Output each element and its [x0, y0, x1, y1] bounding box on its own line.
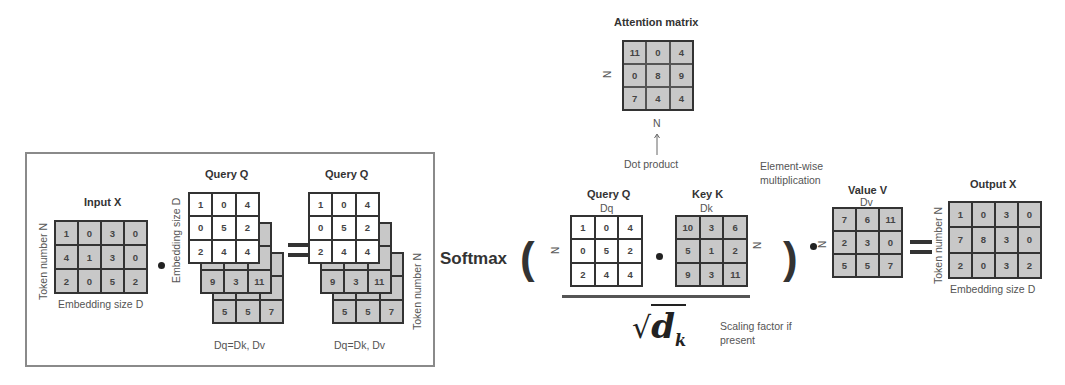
matrix-cell: 0 [190, 217, 211, 238]
matrix-cell: 4 [671, 42, 692, 63]
matrix-cell: 5 [834, 255, 855, 276]
elementwise-line1: Element-wise [760, 160, 823, 172]
equals-operator [288, 243, 310, 257]
matrix-cell: 8 [973, 228, 994, 251]
dot-product-operator [158, 262, 165, 269]
value-row-label: N [817, 241, 828, 248]
scaling-note-line2: present [720, 334, 755, 346]
attention-matrix: 1104089744 [622, 40, 694, 111]
input-x-title: Input X [84, 196, 121, 208]
matrix-cell: 4 [237, 241, 258, 262]
matrix-cell: 4 [596, 264, 618, 285]
matrix-cell: 9 [322, 271, 343, 292]
elementwise-operator [810, 243, 817, 250]
matrix-cell: 2 [619, 240, 641, 261]
matrix-cell: 5 [334, 301, 355, 322]
left-paren: ( [520, 236, 535, 280]
query-row-label: N [550, 247, 561, 254]
matrix-cell: 3 [996, 254, 1017, 277]
result-front-matrix: 104052244 [308, 192, 380, 264]
key-title: Key K [692, 188, 723, 200]
matrix-cell: 5 [213, 217, 234, 238]
matrix-cell: 2 [572, 264, 594, 285]
matrix-cell: 9 [202, 271, 223, 292]
result-stack-side-label: Token number N [411, 253, 423, 330]
matrix-cell: 4 [357, 194, 378, 215]
matrix-cell: 10 [677, 217, 699, 238]
matrix-cell: 0 [1019, 228, 1040, 251]
matrix-cell: 1 [572, 217, 594, 238]
matrix-cell: 2 [1019, 254, 1040, 277]
matrix-cell: 1 [56, 222, 77, 244]
matrix-cell: 3 [345, 271, 366, 292]
key-row-label: N [752, 242, 763, 249]
softmax-label: Softmax [440, 249, 507, 269]
matrix-cell: 11 [369, 271, 390, 292]
matrix-cell: 0 [624, 65, 645, 86]
matrix-cell: 5 [333, 217, 354, 238]
matrix-cell: 3 [701, 217, 723, 238]
output-row-label: Token number N [932, 207, 944, 284]
matrix-cell: 1 [701, 240, 723, 261]
matrix-cell: 0 [880, 232, 901, 253]
matrix-cell: 2 [724, 240, 746, 261]
dk-term: kdk [651, 304, 686, 346]
weight-stack-bottom-label: Dq=Dk, Dv [214, 339, 265, 351]
result-stack-title: Query Q [325, 168, 368, 180]
matrix-cell: 0 [79, 270, 100, 292]
matrix-cell: 0 [213, 194, 234, 215]
matrix-cell: 0 [310, 217, 331, 238]
weight-stack-title: Query Q [205, 168, 248, 180]
fraction-line [562, 295, 750, 298]
key-subtitle: Dk [700, 202, 713, 214]
matrix-cell: 7 [950, 228, 971, 251]
matrix-cell: 11 [249, 271, 270, 292]
matrix-cell: 0 [1019, 203, 1040, 226]
matrix-cell: 2 [190, 241, 211, 262]
attention-row-label: N [602, 71, 613, 78]
matrix-cell: 0 [973, 254, 994, 277]
output-matrix: 103078302032 [948, 201, 1042, 279]
weight-stack-side-label: Embedding size D [170, 198, 182, 283]
matrix-cell: 1 [190, 194, 211, 215]
matrix-cell: 4 [56, 246, 77, 268]
dot-product-label: Dot product [624, 158, 678, 170]
value-title: Value V [848, 184, 887, 196]
matrix-cell: 3 [857, 232, 878, 253]
matrix-cell: 11 [880, 209, 901, 230]
matrix-cell: 3 [996, 228, 1017, 251]
matrix-cell: 2 [125, 270, 146, 292]
input-x-row-label: Token number N [37, 223, 49, 300]
matrix-cell: 5 [102, 270, 123, 292]
value-matrix: 7611230557 [832, 207, 903, 278]
matrix-cell: 0 [333, 194, 354, 215]
matrix-cell: 2 [310, 241, 331, 262]
matrix-cell: 0 [125, 222, 146, 244]
right-paren: ) [783, 236, 798, 280]
matrix-cell: 6 [724, 217, 746, 238]
elementwise-line2: multiplication [760, 174, 821, 186]
matrix-cell: 4 [619, 264, 641, 285]
matrix-cell: 7 [624, 88, 645, 109]
matrix-cell: 8 [647, 65, 668, 86]
matrix-cell: 3 [996, 203, 1017, 226]
matrix-cell: 11 [624, 42, 645, 63]
matrix-cell: 1 [79, 246, 100, 268]
matrix-cell: 2 [56, 270, 77, 292]
matrix-cell: 6 [857, 209, 878, 230]
sqrt-dk: √kdk [632, 306, 686, 350]
matrix-cell: 5 [357, 301, 378, 322]
matrix-cell: 7 [834, 209, 855, 230]
matrix-cell: 7 [880, 255, 901, 276]
matrix-cell: 4 [619, 217, 641, 238]
query-title: Query Q [587, 188, 630, 200]
matrix-cell: 4 [237, 194, 258, 215]
attention-col-label: N [653, 117, 661, 129]
matrix-cell: 2 [357, 217, 378, 238]
matrix-cell: 3 [102, 246, 123, 268]
matrix-cell: 1 [950, 203, 971, 226]
matrix-cell: 9 [671, 65, 692, 86]
matrix-cell: 0 [125, 246, 146, 268]
matrix-cell: 0 [572, 240, 594, 261]
input-x-matrix: 103041302052 [54, 220, 148, 294]
